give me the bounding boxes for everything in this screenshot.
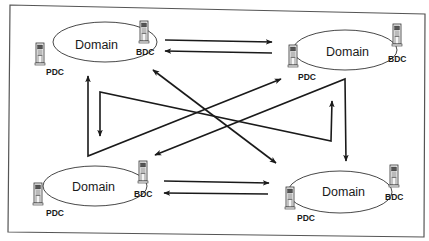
trust-arrow-bl-via-right-to-tr [100, 92, 332, 141]
pdc-server-icon [35, 43, 45, 65]
trust-relationship-diagram: Domain PDC BDC Domain PDC BDC Domain PDC… [0, 0, 429, 241]
domain-label: Domain [326, 45, 369, 59]
bdc-server-icon [138, 161, 148, 183]
pdc-label: PDC [298, 72, 316, 82]
bdc-label: BDC [385, 192, 403, 202]
trust-arrow-tl-to-tr [165, 40, 272, 42]
pdc-server-icon [285, 187, 295, 209]
domain-label: Domain [72, 180, 115, 194]
pdc-server-icon [288, 45, 298, 67]
domain-bottom-right: Domain PDC BDC [285, 165, 403, 223]
diagram-frame [8, 5, 425, 237]
bdc-label: BDC [388, 54, 406, 64]
trust-arrow-br-to-bl [164, 193, 268, 194]
bdc-server-icon [389, 165, 399, 187]
pdc-label: PDC [297, 213, 315, 223]
domain-top-right: Domain PDC BDC [288, 24, 406, 82]
domain-label: Domain [75, 38, 118, 52]
bdc-server-icon [139, 21, 149, 43]
trust-arrow-tr-to-tl [165, 51, 272, 53]
bdc-label: BDC [136, 47, 154, 57]
trust-arrow-bl-to-br [164, 181, 269, 183]
pdc-label: PDC [46, 208, 64, 218]
domain-label: Domain [322, 185, 365, 199]
domain-bottom-left: Domain PDC BDC [33, 161, 152, 218]
pdc-label: PDC [46, 67, 64, 77]
pdc-server-icon [33, 183, 43, 205]
bdc-server-icon [392, 24, 402, 46]
bdc-label: BDC [134, 189, 152, 199]
domain-top-left: Domain PDC BDC [35, 21, 157, 77]
